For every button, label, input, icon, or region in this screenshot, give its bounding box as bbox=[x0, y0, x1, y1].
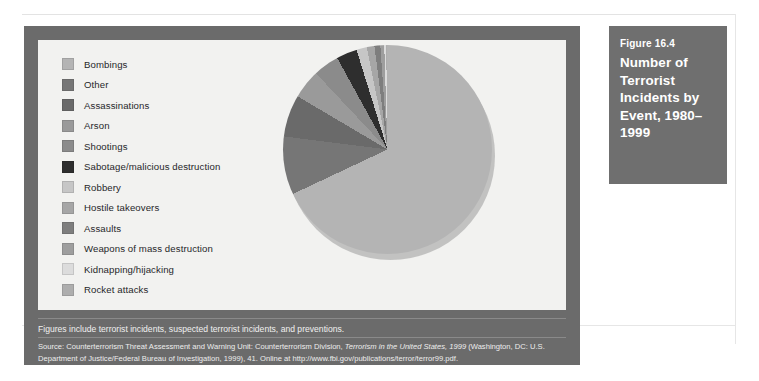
legend-item-label: Robbery bbox=[84, 182, 121, 193]
legend-swatch-icon bbox=[62, 140, 74, 152]
legend-item: Rocket attacks bbox=[62, 280, 292, 301]
legend-item-label: Assassinations bbox=[84, 100, 149, 111]
source-title-italic: Terrorism in the United States, 1999 bbox=[345, 342, 466, 351]
legend-item-label: Arson bbox=[84, 120, 110, 131]
legend-item: Bombings bbox=[62, 54, 292, 75]
legend-swatch-icon bbox=[62, 99, 74, 111]
source-prefix: Source: Counterterrorism Threat Assessme… bbox=[38, 342, 345, 351]
legend-item-label: Weapons of mass destruction bbox=[84, 243, 213, 254]
legend-item-label: Kidnapping/hijacking bbox=[84, 264, 174, 275]
legend-item-label: Sabotage/malicious destruction bbox=[84, 161, 220, 172]
figure-number: Figure 16.4 bbox=[620, 38, 717, 49]
legend-swatch-icon bbox=[62, 161, 74, 173]
legend-item: Assaults bbox=[62, 218, 292, 239]
figure-title: Number of Terrorist Incidents by Event, … bbox=[620, 54, 717, 142]
legend-item-label: Other bbox=[84, 79, 109, 90]
legend-item: Assassinations bbox=[62, 95, 292, 116]
legend-item: Sabotage/malicious destruction bbox=[62, 157, 292, 178]
legend-swatch-icon bbox=[62, 79, 74, 91]
legend-item: Robbery bbox=[62, 177, 292, 198]
legend-item: Shootings bbox=[62, 136, 292, 157]
figure-panel: BombingsOtherAssassinationsArsonShooting… bbox=[24, 26, 580, 365]
chart-plot-area: BombingsOtherAssassinationsArsonShooting… bbox=[38, 40, 566, 310]
figure-note: Figures include terrorist incidents, sus… bbox=[38, 323, 566, 335]
figure-source: Source: Counterterrorism Threat Assessme… bbox=[38, 341, 572, 364]
legend-item: Kidnapping/hijacking bbox=[62, 259, 292, 280]
page-edge-top-rule bbox=[22, 14, 736, 15]
legend-swatch-icon bbox=[62, 243, 74, 255]
legend-swatch-icon bbox=[62, 58, 74, 70]
pie-slices bbox=[283, 45, 492, 254]
legend-item-label: Bombings bbox=[84, 59, 127, 70]
legend-swatch-icon bbox=[62, 181, 74, 193]
pie-chart bbox=[283, 45, 533, 295]
chart-legend: BombingsOtherAssassinationsArsonShooting… bbox=[62, 54, 292, 300]
legend-swatch-icon bbox=[62, 202, 74, 214]
legend-item: Hostile takeovers bbox=[62, 198, 292, 219]
legend-item-label: Hostile takeovers bbox=[84, 202, 159, 213]
figure-title-box: Figure 16.4 Number of Terrorist Incident… bbox=[609, 26, 727, 184]
legend-item-label: Rocket attacks bbox=[84, 284, 148, 295]
source-divider bbox=[38, 337, 566, 338]
legend-swatch-icon bbox=[62, 284, 74, 296]
legend-item: Other bbox=[62, 75, 292, 96]
legend-item-label: Shootings bbox=[84, 141, 128, 152]
page-edge-right-rule bbox=[735, 14, 736, 344]
legend-swatch-icon bbox=[62, 222, 74, 234]
legend-item: Weapons of mass destruction bbox=[62, 239, 292, 260]
legend-swatch-icon bbox=[62, 120, 74, 132]
legend-item: Arson bbox=[62, 116, 292, 137]
legend-item-label: Assaults bbox=[84, 223, 121, 234]
note-divider bbox=[38, 318, 566, 319]
legend-swatch-icon bbox=[62, 263, 74, 275]
